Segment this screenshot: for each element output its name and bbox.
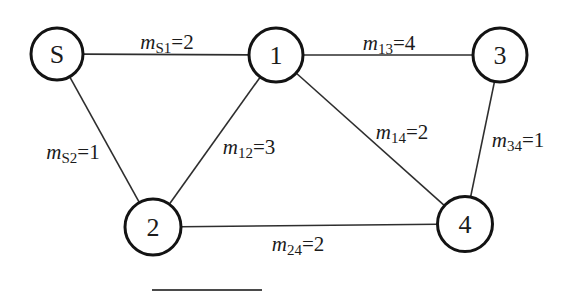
- edge-label-m14: m14=2: [376, 120, 429, 146]
- node-label-2: 2: [147, 213, 160, 242]
- edge-label-m12: m12=3: [223, 135, 276, 161]
- edge-2-4: [181, 224, 438, 226]
- edge-label-mS1: mS1=2: [140, 30, 193, 56]
- graph-diagram: mS1=2m13=4mS2=1m12=3m14=2m34=1m24=2S1324: [0, 0, 571, 296]
- edge-label-m13: m13=4: [363, 31, 416, 57]
- node-label-4: 4: [459, 210, 472, 239]
- graph-canvas: mS1=2m13=4mS2=1m12=3m14=2m34=1m24=2S1324: [0, 0, 571, 296]
- edge-label-mS2: mS2=1: [46, 140, 99, 166]
- node-label-3: 3: [494, 41, 507, 70]
- edge-label-m34: m34=1: [492, 128, 545, 154]
- edge-1-2: [169, 77, 260, 204]
- node-label-S: S: [50, 40, 64, 69]
- edge-label-m24: m24=2: [272, 232, 325, 258]
- node-label-1: 1: [270, 41, 283, 70]
